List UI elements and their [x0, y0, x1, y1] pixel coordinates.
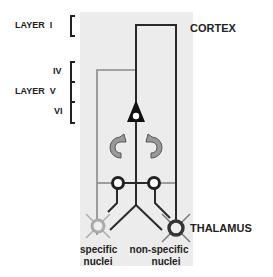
layer-word: LAYER: [15, 86, 45, 96]
layer-numeral-v: V: [50, 86, 56, 96]
layer-v-label: LAYER V: [15, 86, 56, 96]
layer-i-bracket: [71, 16, 75, 36]
layer-vi-label: VI: [54, 106, 63, 116]
thalamus-label: THALAMUS: [190, 222, 252, 234]
feedback-arrow-left-icon: [110, 134, 126, 158]
cortex-label: CORTEX: [190, 22, 236, 34]
layer-iv-vi-bracket: [71, 62, 75, 123]
nonspecific-nuclei-line1: non-specific: [128, 244, 190, 256]
feedback-arrow-right-icon: [146, 134, 162, 158]
specific-nuclei-line2: nuclei: [80, 256, 116, 268]
specific-nuclei-label: specific nuclei: [80, 244, 116, 268]
layer-iv-label: IV: [53, 66, 62, 76]
layer-word: LAYER: [15, 20, 45, 30]
nonspecific-nuclei-label: non-specific nuclei: [128, 244, 190, 268]
cortical-axon: [108, 25, 176, 230]
specific-nuclei-line1: specific: [80, 244, 116, 256]
layer-i-label: LAYER I: [15, 20, 52, 30]
relay-node-left-icon: [113, 178, 124, 189]
circuit-diagram: [0, 0, 273, 277]
relay-node-right-icon: [149, 178, 160, 189]
pyramidal-neuron-icon: [127, 100, 145, 122]
nonspecific-nuclei-line2: nuclei: [128, 256, 190, 268]
specific-nuclei-node-icon: [86, 214, 110, 238]
layer-numeral-i: I: [50, 20, 53, 30]
